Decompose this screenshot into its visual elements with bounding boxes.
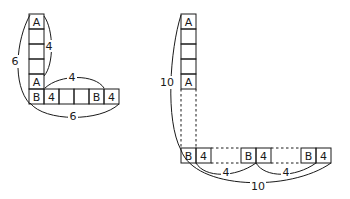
right-figure: A A B 4 B 4 B 4: [160, 14, 331, 193]
right-column-cell: [181, 59, 196, 74]
left-row-outer-label: 6: [70, 110, 77, 123]
left-column-label: A: [33, 16, 41, 29]
left-row-cell: [74, 89, 89, 104]
left-column: A A: [29, 14, 44, 89]
right-gap-label-1: 4: [223, 166, 230, 179]
right-row-group-3: B 4: [301, 148, 331, 163]
right-column: A A: [181, 14, 196, 89]
left-row-label: 4: [48, 91, 55, 104]
right-row-group-2: B 4: [241, 148, 271, 163]
right-row-label: 4: [320, 150, 327, 163]
left-column-cell: [29, 44, 44, 59]
right-row-label: B: [185, 150, 193, 163]
left-row-cell: [59, 89, 74, 104]
right-column-outer-label: 10: [160, 76, 174, 89]
left-row-label: 4: [108, 91, 115, 104]
left-column-cell: [29, 29, 44, 44]
right-column-cell: [181, 44, 196, 59]
right-dimensions: 10 4 4 10: [160, 15, 331, 193]
diagram-svg: A A B 4 B 4 4 6 4: [0, 0, 350, 199]
right-row-outer-label: 10: [251, 180, 265, 193]
left-row-inner-label: 4: [69, 71, 76, 84]
left-row-label: B: [93, 91, 101, 104]
left-row: B 4 B 4: [29, 89, 119, 104]
left-column-inner-label: 4: [46, 40, 53, 53]
right-column-cell: [181, 29, 196, 44]
diagram-canvas: A A B 4 B 4 4 6 4: [0, 0, 350, 199]
left-column-outer-label: 6: [12, 55, 19, 68]
right-column-label: A: [185, 76, 193, 89]
right-row-label: B: [245, 150, 253, 163]
right-row-label: B: [305, 150, 313, 163]
left-dimensions: 4 6 4 6: [11, 15, 119, 123]
left-row-label: B: [33, 91, 41, 104]
left-figure: A A B 4 B 4 4 6 4: [11, 14, 119, 123]
right-row-label: 4: [260, 150, 267, 163]
right-row-group-1: B 4: [181, 148, 211, 163]
left-column-cell: [29, 59, 44, 74]
right-gap-label-2: 4: [283, 166, 290, 179]
left-column-label: A: [33, 76, 41, 89]
right-column-label: A: [185, 16, 193, 29]
right-row-label: 4: [200, 150, 207, 163]
